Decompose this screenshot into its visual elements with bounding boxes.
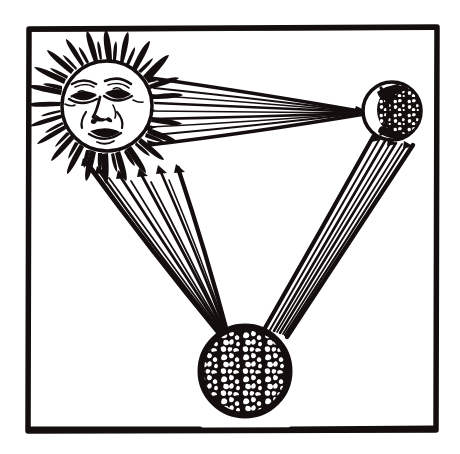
earth [199,325,291,417]
woodcut-figure: Solar system diagram with personified su… [0,0,460,454]
diagram-canvas [0,0,460,454]
earth-texture [204,330,286,412]
border-bottom-right-segment [291,428,434,429]
